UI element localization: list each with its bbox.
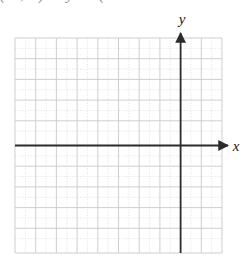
coordinate-grid-figure: ( , ) y (	[0, 0, 246, 259]
y-axis-label: y	[177, 11, 186, 27]
grid-svg: x y	[0, 0, 246, 259]
x-axis-label: x	[232, 138, 240, 154]
